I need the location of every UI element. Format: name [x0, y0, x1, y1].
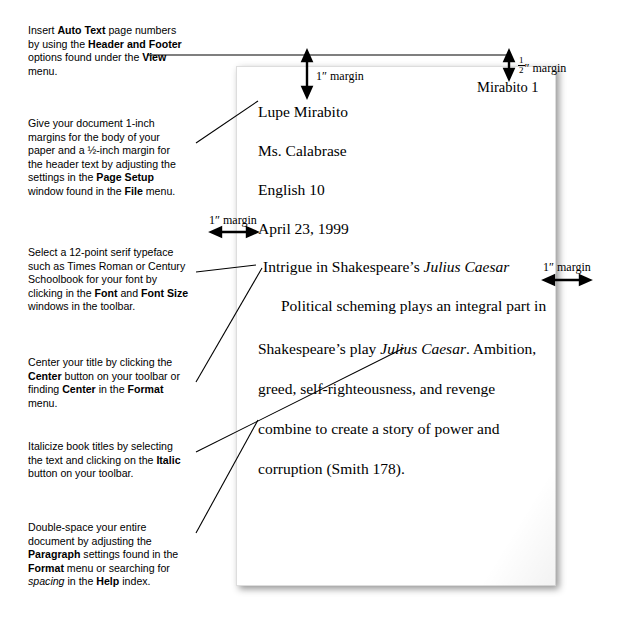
left-margin-label: 1″ margin	[209, 213, 257, 228]
note-italicize: Italicize book titles by selectingthe te…	[28, 440, 203, 481]
title-italic: Julius Caesar	[424, 258, 510, 275]
note-typeface: Select a 12-point serif typefacesuch as …	[28, 246, 203, 314]
document-header-page-number: Mirabito 1	[477, 79, 539, 96]
body-line-2-italic: Julius Caesar	[380, 340, 466, 357]
top-margin-label: 1″ margin	[316, 69, 364, 84]
heading-line-instructor: Ms. Calabrase	[258, 142, 347, 160]
body-line-4: combine to create a story of power and	[258, 420, 499, 438]
body-line-2-post: . Ambition,	[466, 340, 536, 357]
right-margin-label: 1″ margin	[543, 260, 591, 275]
document-title: Intrigue in Shakespeare’s Julius Caesar	[263, 258, 509, 276]
heading-line-date: April 23, 1999	[258, 220, 349, 238]
note-double-space: Double-space your entiredocument by adju…	[28, 521, 203, 589]
body-line-1: Political scheming plays an integral par…	[281, 297, 546, 315]
body-line-3: greed, self-righteousness, and revenge	[258, 380, 495, 398]
note-margins: Give your document 1-inchmargins for the…	[28, 117, 203, 199]
title-prefix: Intrigue in Shakespeare’s	[263, 258, 424, 275]
note-center-title: Center your title by clicking theCenter …	[28, 356, 203, 410]
body-line-2-pre: Shakespeare’s play	[258, 340, 380, 357]
body-line-5: corruption (Smith 178).	[258, 460, 405, 478]
heading-line-name: Lupe Mirabito	[258, 103, 348, 121]
figure-root: Mirabito 1 Lupe Mirabito Ms. Calabrase E…	[0, 0, 623, 623]
heading-line-course: English 10	[258, 181, 325, 199]
body-line-2: Shakespeare’s play Julius Caesar. Ambiti…	[258, 340, 536, 358]
note-auto-text: Insert Auto Text page numbersby using th…	[28, 24, 203, 78]
half-inch-margin-label: 12″ margin	[518, 56, 566, 76]
half-inch-suffix: margin	[530, 61, 567, 75]
